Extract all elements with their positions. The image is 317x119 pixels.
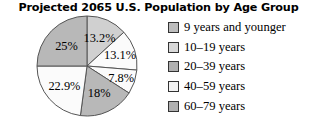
- pie-chart-plot-area: 13.2%13.1%7.8%18%22.9%25%: [0, 14, 170, 119]
- pie-slice-label: 22.9%: [48, 79, 80, 93]
- legend-item: 20–39 years: [168, 57, 317, 77]
- legend-item: 10–19 years: [168, 38, 317, 58]
- pie-slice-label: 13.2%: [83, 31, 115, 45]
- legend-item-label: 9 years and younger: [184, 21, 286, 34]
- pie-slice-label: 13.1%: [104, 48, 136, 62]
- chart-legend: 9 years and younger10–19 years20–39 year…: [168, 18, 317, 117]
- legend-color-swatch: [168, 101, 179, 112]
- legend-item-label: 10–19 years: [184, 41, 245, 54]
- legend-item: 9 years and younger: [168, 18, 317, 38]
- legend-color-swatch: [168, 22, 179, 33]
- pie-chart-figure: Projected 2065 U.S. Population by Age Gr…: [0, 0, 317, 119]
- legend-item-label: 20–39 years: [184, 60, 245, 73]
- legend-item-label: 60–79 years: [184, 100, 245, 113]
- legend-item-label: 40–59 years: [184, 80, 245, 93]
- legend-color-swatch: [168, 42, 179, 53]
- pie-slice-label: 25%: [55, 39, 78, 53]
- legend-color-swatch: [168, 61, 179, 72]
- pie-slice-label: 18%: [88, 86, 111, 100]
- legend-item: 40–59 years: [168, 77, 317, 97]
- pie-slice-label: 7.8%: [108, 71, 134, 85]
- chart-title: Projected 2065 U.S. Population by Age Gr…: [0, 1, 317, 14]
- pie-chart-svg: 13.2%13.1%7.8%18%22.9%25%: [0, 14, 170, 119]
- legend-item: 60–79 years: [168, 96, 317, 116]
- legend-color-swatch: [168, 81, 179, 92]
